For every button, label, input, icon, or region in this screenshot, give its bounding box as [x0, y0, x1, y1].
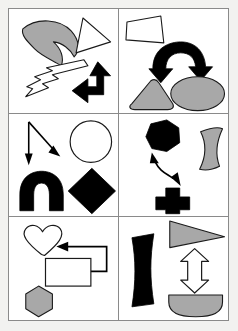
- trapezoid-shape: [125, 16, 163, 43]
- panel-bottom-right: Panel 6: [119, 216, 229, 320]
- heart-shape: [24, 226, 62, 256]
- hexagon-shape: [26, 286, 53, 317]
- curved-vertical-bar-shape: [131, 234, 153, 307]
- panel-top-left: Panel 1: [9, 9, 119, 113]
- cross-plus-shape: [155, 188, 189, 214]
- circle-shape: [70, 121, 111, 162]
- arrow-diagonal-down-right-shape: [29, 122, 61, 157]
- arrow-down-shape: [25, 122, 33, 165]
- double-arrow-vertical-shape: [180, 249, 208, 293]
- panel-bottom-left: Panel 5: [9, 216, 119, 320]
- panel-frame: Panel 1 Panel 2: [8, 8, 229, 321]
- pennant-triangle-right-shape: [169, 221, 224, 248]
- hexagon-blob-shape: [145, 120, 179, 152]
- panel-top-right: Panel 2: [119, 9, 229, 113]
- diamond-shape: [68, 168, 115, 213]
- panel-middle-right: Panel 4: [119, 113, 229, 217]
- ellipse-shape: [170, 77, 224, 111]
- half-disc-shape: [168, 295, 222, 317]
- wavy-ribbon-shape: [199, 127, 222, 169]
- rounded-triangle-shape: [129, 80, 173, 110]
- curvy-double-arrow-shape: [149, 152, 180, 186]
- arch-horseshoe-shape: [20, 171, 63, 210]
- rectangle-shape: [45, 259, 90, 287]
- shape-grid-image: Panel 1 Panel 2: [0, 0, 238, 331]
- panel-middle-left: Panel 3: [9, 113, 119, 217]
- crescent-shape: [22, 21, 78, 66]
- triangle-shape: [76, 18, 111, 53]
